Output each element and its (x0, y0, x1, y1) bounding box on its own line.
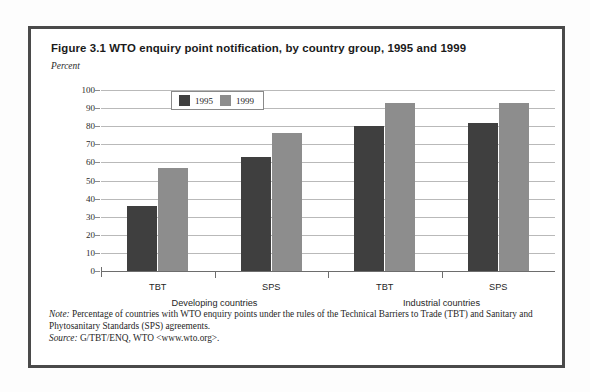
y-axis-tick-mark (95, 126, 100, 127)
page-root: Figure 3.1 WTO enquiry point notificatio… (0, 0, 590, 392)
legend-item-1999: 1999 (220, 95, 254, 106)
y-axis-tick-label: 80 (69, 121, 95, 131)
y-axis-tick-mark (95, 253, 100, 254)
axis-unit-label: Percent (51, 61, 80, 71)
y-axis-tick-label: 90 (69, 103, 95, 113)
x-axis-separator-tick (328, 271, 329, 278)
chart-plot-wrapper: 0102030405060708090100 1995 1999 TBTSPST… (51, 77, 551, 302)
gridline (101, 108, 555, 109)
bar-1999-SPS-3 (499, 103, 529, 271)
y-axis-tick-mark (95, 162, 100, 163)
y-axis-tick-label: 100 (69, 85, 95, 95)
bar-1999-TBT-2 (385, 103, 415, 271)
y-axis-tick-label: 50 (69, 176, 95, 186)
source-lead: Source: (49, 333, 78, 343)
bar-1999-SPS-1 (272, 133, 302, 271)
y-axis-tick-mark (95, 90, 100, 91)
y-axis-tick-mark (95, 144, 100, 145)
legend-swatch-1999-icon (220, 95, 231, 106)
figure-inner: Figure 3.1 WTO enquiry point notificatio… (31, 29, 562, 365)
legend-swatch-1995-icon (179, 95, 190, 106)
chart-legend: 1995 1999 (171, 91, 264, 110)
legend-label-1995: 1995 (195, 96, 213, 106)
figure-frame: Figure 3.1 WTO enquiry point notificatio… (28, 26, 565, 368)
x-axis-group-label: Industrial countries (403, 298, 480, 308)
y-axis-tick-mark (95, 271, 100, 272)
x-axis-group-label: Developing countries (172, 298, 258, 308)
x-axis-category-label: TBT (149, 282, 166, 292)
y-axis-tick-mark (95, 108, 100, 109)
x-axis-category-label: TBT (376, 282, 393, 292)
y-axis-tick-label: 40 (69, 194, 95, 204)
y-axis-tick-label: 60 (69, 157, 95, 167)
y-axis-tick-mark (95, 235, 100, 236)
bar-1995-SPS-3 (468, 123, 498, 271)
figure-source: Source: G/TBT/ENQ, WTO <www.wto.org>. (49, 333, 548, 345)
x-axis-separator-tick (215, 271, 216, 278)
note-text: Percentage of countries with WTO enquiry… (49, 309, 533, 331)
figure-footnotes: Note: Percentage of countries with WTO e… (49, 309, 548, 345)
chart-plot-area (101, 90, 555, 271)
figure-note: Note: Percentage of countries with WTO e… (49, 309, 548, 332)
bar-1995-TBT-2 (354, 126, 384, 271)
bar-1999-TBT-0 (158, 168, 188, 271)
y-axis-tick-mark (95, 199, 100, 200)
y-axis-tick-label: 20 (69, 230, 95, 240)
x-axis-separator-tick (442, 271, 443, 278)
source-text: G/TBT/ENQ, WTO <www.wto.org>. (78, 333, 220, 343)
legend-item-1995: 1995 (179, 95, 213, 106)
y-axis-tick-mark (95, 181, 100, 182)
x-axis-category-label: SPS (262, 282, 280, 292)
y-axis-line (101, 267, 102, 277)
gridline (101, 90, 555, 91)
y-axis-tick-label: 70 (69, 139, 95, 149)
page-title: Figure 3.1 WTO enquiry point notificatio… (51, 42, 466, 54)
bar-1995-TBT-0 (127, 206, 157, 271)
y-axis-tick-mark (95, 217, 100, 218)
x-axis-category-label: SPS (489, 282, 507, 292)
y-axis-tick-labels: 0102030405060708090100 (63, 90, 95, 271)
note-lead: Note: (49, 309, 70, 319)
y-axis-tick-label: 30 (69, 212, 95, 222)
legend-label-1999: 1999 (236, 96, 254, 106)
y-axis-tick-label: 0 (69, 266, 95, 276)
bar-1995-SPS-1 (241, 157, 271, 271)
y-axis-tick-label: 10 (69, 248, 95, 258)
